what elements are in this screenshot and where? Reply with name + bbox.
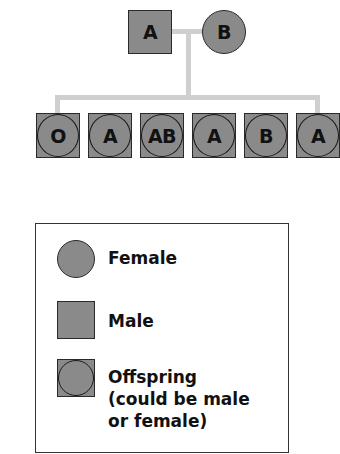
offspring-blood-type: A [311, 125, 325, 147]
female-circle-icon [57, 240, 95, 278]
legend-offspring-line3: or female) [108, 410, 250, 432]
offspring-icon-6: A [296, 113, 340, 158]
offspring-icon-5: B [244, 113, 288, 158]
offspring-square-circle-icon [57, 359, 95, 397]
offspring-blood-type: B [259, 125, 273, 147]
legend-female-label: Female [108, 247, 177, 269]
offspring-icon-2: A [88, 113, 132, 158]
offspring-blood-type: A [103, 125, 117, 147]
male-square-icon [57, 301, 95, 339]
offspring-icon-1: O [36, 113, 80, 158]
legend-male-label: Male [108, 310, 154, 332]
offspring-blood-type: A [207, 125, 221, 147]
offspring-icon-4: A [192, 113, 236, 158]
sibling-bar [55, 95, 320, 100]
legend-offspring-line2: (could be male [108, 388, 250, 410]
mother-circle-icon: B [202, 10, 246, 54]
legend-offspring-label: Offspring (could be male or female) [108, 366, 250, 432]
offspring-drop-1 [55, 95, 60, 114]
father-square-icon: A [128, 10, 172, 54]
father-blood-type: A [143, 21, 157, 43]
legend-offspring-line1: Offspring [108, 366, 250, 388]
offspring-blood-type: O [50, 125, 66, 147]
descent-line [186, 29, 191, 99]
offspring-icon-3: AB [140, 113, 184, 158]
offspring-drop-6 [315, 95, 320, 114]
offspring-blood-type: AB [148, 125, 176, 147]
legend-box: Female Male Offspring (could be male or … [35, 223, 289, 453]
mother-blood-type: B [217, 21, 231, 43]
